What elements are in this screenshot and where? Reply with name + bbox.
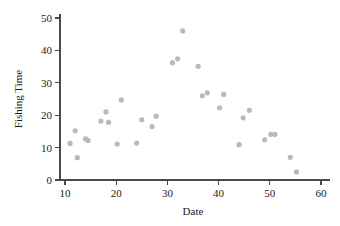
data-point (288, 155, 293, 160)
y-tick-label: 50 (41, 12, 53, 24)
y-axis-title: Fishing Time (12, 70, 24, 129)
data-point (262, 137, 267, 142)
data-point (139, 117, 144, 122)
data-point (247, 108, 252, 113)
data-point (175, 56, 180, 61)
data-point (294, 169, 299, 174)
data-point (115, 141, 120, 146)
data-point (149, 124, 154, 129)
fishing-time-vs-date-scatter-chart: 01020304050 102030405060 Date Fishing Ti… (0, 0, 340, 226)
y-tick-label: 20 (41, 109, 53, 121)
data-points-group (68, 28, 300, 174)
data-point (205, 90, 210, 95)
data-point (272, 132, 277, 137)
x-tick-label: 50 (264, 187, 276, 199)
data-point (73, 128, 78, 133)
axes-group (55, 14, 330, 180)
x-tick-label: 60 (316, 187, 328, 199)
data-point (236, 142, 241, 147)
x-tick-label: 30 (162, 187, 174, 199)
data-point (85, 138, 90, 143)
data-point (154, 114, 159, 119)
scatter-plot-figure: 01020304050 102030405060 Date Fishing Ti… (0, 0, 340, 226)
x-tick-labels-group: 102030405060 (60, 187, 328, 199)
data-point (134, 140, 139, 145)
data-point (200, 93, 205, 98)
data-point (217, 105, 222, 110)
y-tick-label: 0 (47, 174, 53, 186)
y-tick-label: 40 (41, 44, 53, 56)
x-tick-marks-group (65, 180, 321, 185)
data-point (68, 141, 73, 146)
data-point (221, 92, 226, 97)
x-axis-title: Date (183, 205, 204, 217)
y-tick-labels-group: 01020304050 (41, 12, 53, 186)
data-point (196, 64, 201, 69)
y-tick-label: 30 (41, 77, 53, 89)
data-point (75, 155, 80, 160)
data-point (180, 28, 185, 33)
x-tick-label: 40 (213, 187, 225, 199)
data-point (106, 120, 111, 125)
data-point (241, 115, 246, 120)
data-point (119, 97, 124, 102)
data-point (170, 60, 175, 65)
x-tick-label: 10 (60, 187, 72, 199)
data-point (103, 109, 108, 114)
x-tick-label: 20 (111, 187, 123, 199)
y-tick-label: 10 (41, 142, 53, 154)
data-point (98, 118, 103, 123)
y-tick-marks-group (55, 18, 60, 180)
